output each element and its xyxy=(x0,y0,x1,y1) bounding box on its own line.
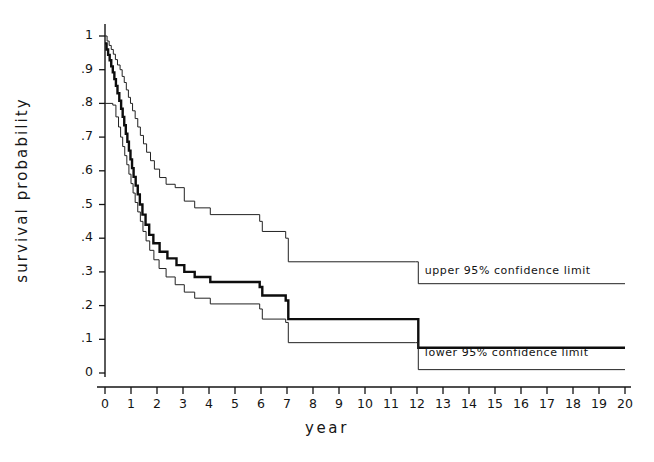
x-tick-label: 11 xyxy=(377,396,405,411)
y-tick-label: .3 xyxy=(59,263,93,278)
x-tick-label: 3 xyxy=(169,396,197,411)
lower-confidence-limit-label: lower 95% confidence limit xyxy=(425,346,589,359)
x-tick-label: 15 xyxy=(481,396,509,411)
x-tick-label: 18 xyxy=(559,396,587,411)
series-line-0 xyxy=(105,36,625,284)
y-tick-label: .1 xyxy=(59,330,93,345)
x-tick-label: 17 xyxy=(533,396,561,411)
y-tick-label: 1 xyxy=(59,27,93,42)
x-tick-label: 13 xyxy=(429,396,457,411)
x-tick-label: 12 xyxy=(403,396,431,411)
y-tick-label: .2 xyxy=(59,297,93,312)
y-tick-label: .7 xyxy=(59,128,93,143)
series-line-2 xyxy=(105,103,625,369)
x-tick-label: 2 xyxy=(143,396,171,411)
x-axis-title: year xyxy=(0,419,654,437)
y-tick-label: .5 xyxy=(59,196,93,211)
x-tick-label: 1 xyxy=(117,396,145,411)
y-tick-label: .8 xyxy=(59,94,93,109)
x-tick-label: 8 xyxy=(299,396,327,411)
y-axis-title-text: survival probability xyxy=(13,97,31,283)
y-tick-label: .9 xyxy=(59,61,93,76)
plot-canvas xyxy=(0,0,654,462)
x-tick-label: 14 xyxy=(455,396,483,411)
x-tick-label: 5 xyxy=(221,396,249,411)
x-tick-label: 4 xyxy=(195,396,223,411)
x-tick-label: 19 xyxy=(585,396,613,411)
series-line-1 xyxy=(105,43,625,347)
x-tick-label: 10 xyxy=(351,396,379,411)
x-tick-label: 7 xyxy=(273,396,301,411)
y-tick-label: .6 xyxy=(59,162,93,177)
x-tick-label: 20 xyxy=(611,396,639,411)
survival-curve-figure: survival probability year 0.1.2.3.4.5.6.… xyxy=(0,0,654,462)
x-tick-label: 16 xyxy=(507,396,535,411)
series-lines xyxy=(105,36,625,370)
y-tick-label: 0 xyxy=(59,364,93,379)
y-tick-label: .4 xyxy=(59,229,93,244)
y-axis-title: survival probability xyxy=(2,0,42,380)
axis-lines xyxy=(97,24,631,394)
upper-confidence-limit-label: upper 95% confidence limit xyxy=(425,264,591,277)
x-tick-label: 6 xyxy=(247,396,275,411)
x-tick-label: 0 xyxy=(91,396,119,411)
x-tick-label: 9 xyxy=(325,396,353,411)
